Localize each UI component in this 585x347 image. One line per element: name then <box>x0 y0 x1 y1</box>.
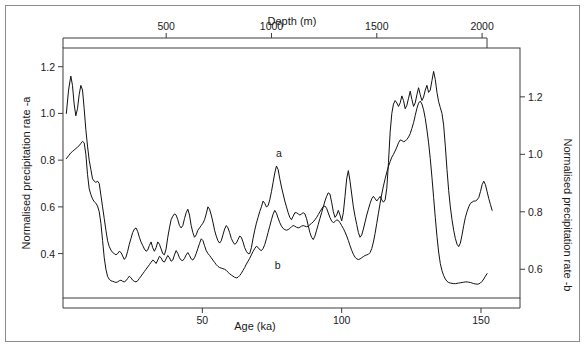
series-annotation-a: a <box>276 147 282 159</box>
bottom-axis-title: Age (ka) <box>234 320 276 332</box>
bottom-axis-ticks <box>202 308 481 313</box>
left-tick-label: 0.6 <box>40 201 55 213</box>
series-line-b <box>66 101 487 284</box>
figure-root: 500100015002000 Depth (m) 0.40.60.81.01.… <box>0 0 585 347</box>
top-axis-title: Depth (m) <box>268 15 317 27</box>
left-axis-ticks <box>58 67 63 254</box>
right-axis-ticks <box>520 97 525 269</box>
left-tick-label: 0.4 <box>40 248 55 260</box>
top-axis-tick-labels: 500100015002000 <box>157 20 494 32</box>
top-axis-line <box>63 38 487 48</box>
right-tick-label: 0.6 <box>528 263 543 275</box>
left-tick-label: 0.8 <box>40 154 55 166</box>
top-depth-axis: 500100015002000 Depth (m) <box>63 15 494 48</box>
bottom-tick-label: 150 <box>472 314 490 326</box>
top-tick-label: 1500 <box>365 20 389 32</box>
left-axis-title: Normalised precipitation rate -a <box>20 96 32 250</box>
right-axis-title: Normalised precipitation rate -b <box>562 139 574 292</box>
bottom-age-axis: 50100150 Age (ka) <box>63 298 520 332</box>
top-tick-label: 2000 <box>470 20 494 32</box>
bottom-axis-line <box>63 298 520 308</box>
bottom-tick-label: 50 <box>196 314 208 326</box>
right-tick-label: 1.2 <box>528 91 543 103</box>
series-group <box>66 71 492 284</box>
plot-area-frame <box>63 48 520 298</box>
left-value-axis: 0.40.60.81.01.2 Normalised precipitation… <box>20 61 63 260</box>
top-tick-label: 500 <box>157 20 175 32</box>
series-line-a <box>66 71 492 259</box>
precipitation-rate-chart: 500100015002000 Depth (m) 0.40.60.81.01.… <box>0 0 585 347</box>
series-annotation-b: b <box>275 259 281 271</box>
right-tick-label: 1.0 <box>528 148 543 160</box>
top-axis-ticks <box>166 33 482 38</box>
left-tick-label: 1.2 <box>40 61 55 73</box>
left-tick-label: 1.0 <box>40 107 55 119</box>
right-tick-label: 0.8 <box>528 206 543 218</box>
right-value-axis: 0.60.81.01.2 Normalised precipitation ra… <box>520 91 574 292</box>
left-axis-tick-labels: 0.40.60.81.01.2 <box>40 61 55 260</box>
series-annotations: ab <box>275 147 282 271</box>
right-axis-tick-labels: 0.60.81.01.2 <box>528 91 543 275</box>
bottom-tick-label: 100 <box>333 314 351 326</box>
